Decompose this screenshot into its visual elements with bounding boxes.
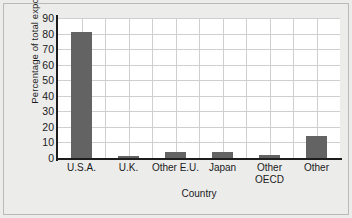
bar xyxy=(306,136,327,158)
bar-series xyxy=(58,18,340,158)
y-tick-label: 0 xyxy=(48,153,54,164)
y-tick-label: 50 xyxy=(42,75,54,86)
x-axis-spine xyxy=(56,158,342,160)
y-tick-label: 20 xyxy=(42,122,54,133)
x-tick-label: Other E.U. xyxy=(152,162,199,174)
y-tick-label: 90 xyxy=(42,13,54,24)
y-tick-label: 40 xyxy=(42,91,54,102)
y-axis-tick-labels: 0102030405060708090 xyxy=(30,12,54,164)
x-tick-label: U.K. xyxy=(119,162,138,174)
y-tick-label: 80 xyxy=(42,28,54,39)
x-axis-title: Country xyxy=(58,188,340,199)
x-tick-label: Other xyxy=(304,162,329,174)
y-axis-spine xyxy=(56,15,58,161)
x-tick-label: Japan xyxy=(209,162,236,174)
plot-area xyxy=(58,18,340,158)
y-tick-label: 60 xyxy=(42,59,54,70)
y-tick-label: 30 xyxy=(42,106,54,117)
y-tick-label: 70 xyxy=(42,44,54,55)
x-tick-label: U.S.A. xyxy=(67,162,96,174)
x-tick-label: Other OECD xyxy=(255,162,284,185)
bar xyxy=(71,32,92,158)
chart-figure: Percentage of total exports 010203040506… xyxy=(0,0,352,218)
y-tick-label: 10 xyxy=(42,137,54,148)
